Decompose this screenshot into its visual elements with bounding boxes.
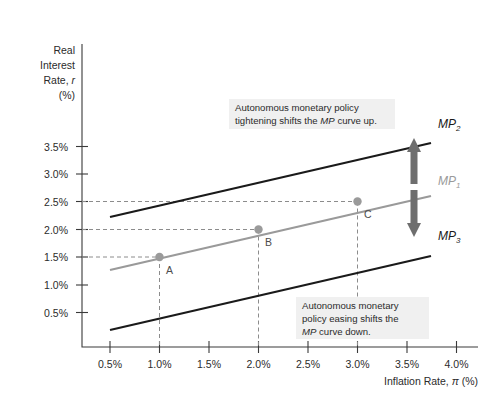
x-tick-label-3-0: 3.0% xyxy=(346,358,370,370)
annotation-tightening-line-2: tightening shifts the MP curve up. xyxy=(235,115,377,126)
x-tick-label-3-5: 3.5% xyxy=(395,358,419,370)
annotation-tightening: Autonomous monetary policy tightening sh… xyxy=(229,99,395,129)
chart-svg: Real Interest Rate, r (%) 3.5% 3.0% 2.5%… xyxy=(0,0,495,409)
y-axis-title-line-2: Interest xyxy=(40,59,75,71)
y-tick-label-1-0: 1.0% xyxy=(44,279,68,291)
x-tick-label-2-5: 2.5% xyxy=(296,358,320,370)
up-arrow-shaft xyxy=(411,151,418,184)
x-tick-label-1-5: 1.5% xyxy=(197,358,221,370)
y-tick-label-1-5: 1.5% xyxy=(44,251,68,263)
annotation-easing-line-1: Autonomous monetary xyxy=(302,300,399,311)
annotation-easing-line-2: policy easing shifts the xyxy=(302,313,399,324)
y-axis-title-line-1: Real xyxy=(53,44,75,56)
y-tick-label-3-0: 3.0% xyxy=(44,168,68,180)
y-tick-label-2-0: 2.0% xyxy=(44,224,68,236)
annotation-tightening-line-1: Autonomous monetary policy xyxy=(235,102,359,113)
down-arrow-shaft xyxy=(411,190,418,223)
mp-curve-chart: Real Interest Rate, r (%) 3.5% 3.0% 2.5%… xyxy=(0,0,495,409)
point-marker-c[interactable] xyxy=(353,197,361,205)
y-tick-label-3-5: 3.5% xyxy=(44,141,68,153)
y-axis-title-r-symbol: r xyxy=(72,74,76,86)
y-axis-title-line-4: (%) xyxy=(59,89,75,101)
x-tick-label-4-0: 4.0% xyxy=(445,358,469,370)
y-axis-title-rate-text: Rate, xyxy=(43,74,71,86)
x-tick-label-1-0: 1.0% xyxy=(148,358,172,370)
point-marker-a[interactable] xyxy=(155,253,163,261)
y-tick-label-0-5: 0.5% xyxy=(44,307,68,319)
point-label-b: B xyxy=(265,236,272,248)
y-axis-title-line-3: Rate, r xyxy=(43,74,75,86)
point-marker-b[interactable] xyxy=(254,225,262,233)
x-axis-title: Inflation Rate, π (%) xyxy=(384,375,478,387)
annotation-easing-line-3: MP curve down. xyxy=(302,326,371,337)
point-label-a: A xyxy=(166,264,173,276)
x-tick-label-0-5: 0.5% xyxy=(98,358,122,370)
x-tick-label-2-0: 2.0% xyxy=(247,358,271,370)
point-label-c: C xyxy=(364,208,372,220)
annotation-easing: Autonomous monetary policy easing shifts… xyxy=(296,297,429,339)
y-tick-label-2-5: 2.5% xyxy=(44,196,68,208)
